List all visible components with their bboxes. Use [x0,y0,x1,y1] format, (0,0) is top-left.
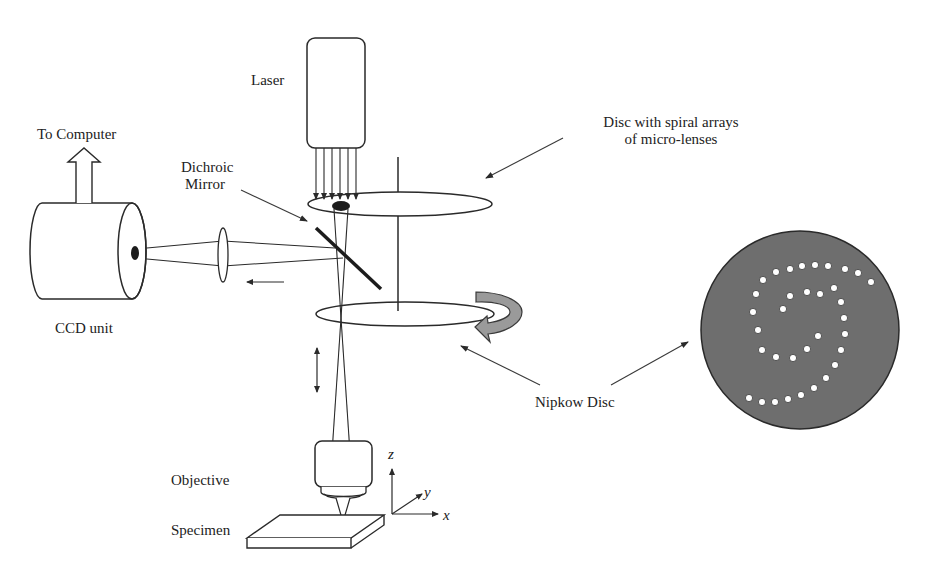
pinhole [803,288,810,295]
pinhole [816,290,823,297]
ccd-unit [30,203,146,299]
label-laser: Laser [251,72,284,89]
label-disc-microlens-1: Disc with spiral arrays [566,114,776,131]
pinhole [772,268,779,275]
pinhole [752,290,759,297]
objective-lens [315,441,372,522]
diagram-svg [0,0,928,582]
pinhole [798,262,805,269]
laser-beams [316,148,356,199]
label-nipkow-disc: Nipkow Disc [535,394,615,411]
label-specimen: Specimen [171,522,230,539]
pinhole [837,298,844,305]
pinhole [867,278,874,285]
label-axis-x: x [443,507,450,524]
laser-source [307,38,365,148]
dichroic-mirror [316,228,381,289]
pinhole [811,261,818,268]
label-axis-z: z [388,446,394,463]
label-dichroic: Dichroic [181,159,233,176]
pinhole [784,395,791,402]
label-axis-y: y [424,484,431,501]
label-mirror: Mirror [185,176,225,193]
coordinate-axes [392,469,438,514]
rotation-arrow-icon [475,292,522,342]
pinhole [803,345,810,352]
pointer-lines [241,138,688,385]
nipkow-disc-side [316,302,494,326]
pinhole [786,292,793,299]
label-objective: Objective [171,472,229,489]
pinhole [786,265,793,272]
pinhole [745,394,752,401]
specimen-slide [247,515,384,548]
pinhole [831,361,838,368]
pinhole [830,284,837,291]
pinhole [822,374,829,381]
pinhole [771,398,778,405]
label-disc-microlens-2: of micro-lenses [566,131,776,148]
reflected-beam [136,241,343,266]
pinhole [779,305,786,312]
pinhole [840,314,847,321]
diagram-canvas: Laser To Computer Dichroic Mirror Disc w… [0,0,928,582]
pinhole [810,384,817,391]
pinhole [841,265,848,272]
microlens-disc [308,192,492,216]
pinhole [837,346,844,353]
to-computer-arrow [68,148,100,203]
pinhole [759,276,766,283]
label-to-computer: To Computer [37,126,116,143]
nipkow-disc-front [701,231,899,429]
pinhole [854,269,861,276]
pinhole [824,262,831,269]
pinhole [758,346,765,353]
label-ccd-unit: CCD unit [55,320,113,337]
pinhole [797,391,804,398]
pinhole [754,326,761,333]
relay-lens [218,228,228,282]
pinhole [772,353,779,360]
pinhole [841,330,848,337]
pinhole [814,332,821,339]
pinhole [789,354,796,361]
pinhole [749,308,756,315]
pinhole [758,398,765,405]
